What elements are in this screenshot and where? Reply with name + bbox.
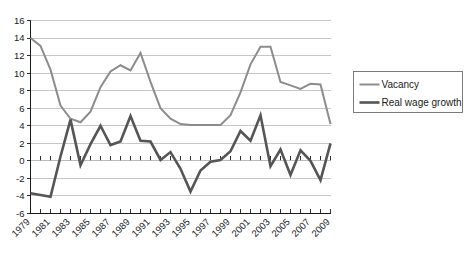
y-tick-label: 12 (14, 50, 25, 61)
axes-group (31, 21, 331, 214)
x-tick-label: 2005 (269, 216, 292, 239)
y-tick-label: 8 (19, 85, 24, 96)
x-tick-label: 1991 (129, 216, 152, 239)
y-tick-label: 14 (14, 32, 25, 43)
x-tick-label: 1993 (149, 216, 172, 239)
x-axis-labels: 1979198119831985198719891991199319951997… (9, 216, 332, 239)
y-tick-label: 4 (19, 120, 24, 131)
x-tick-label: 1987 (89, 216, 112, 239)
x-tick-label: 1983 (49, 216, 72, 239)
legend-label-vacancy[interactable]: Vacancy (382, 79, 420, 90)
chart-figure: -6-4-20246810121416 19791981198319851987… (0, 0, 466, 254)
y-tick-label: 16 (14, 15, 25, 26)
series-line-real-wage-growth (31, 115, 331, 197)
legend-label-real-wage-growth[interactable]: Real wage growth (382, 97, 462, 108)
x-tick-label: 1985 (69, 216, 92, 239)
y-tick-label: 10 (14, 68, 25, 79)
tickmarks-group (27, 21, 331, 214)
y-axis-labels: -6-4-20246810121416 (14, 15, 25, 219)
y-tick-label: -2 (16, 173, 24, 184)
x-tick-label: 2001 (229, 216, 252, 239)
x-tick-label: 2009 (309, 216, 332, 239)
y-tick-label: 6 (19, 103, 24, 114)
chart-legend[interactable]: VacancyReal wage growth (354, 72, 463, 113)
y-tick-label: -4 (16, 190, 24, 201)
x-tick-label: 2007 (289, 216, 312, 239)
series-line-vacancy (31, 38, 331, 125)
y-tick-label: 2 (19, 138, 24, 149)
x-tick-label: 2003 (249, 216, 272, 239)
x-tick-label: 1999 (209, 216, 232, 239)
x-tick-label: 1989 (109, 216, 132, 239)
x-tick-label: 1995 (169, 216, 192, 239)
y-tick-label: 0 (19, 155, 24, 166)
x-tick-label: 1997 (189, 216, 212, 239)
x-tick-label: 1979 (9, 216, 32, 239)
x-tick-label: 1981 (29, 216, 52, 239)
series-group (31, 38, 331, 197)
